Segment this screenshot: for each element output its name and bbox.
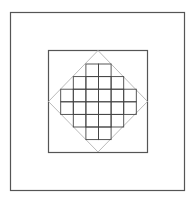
grid-cell — [99, 102, 112, 115]
grid-cell — [86, 89, 99, 102]
grid-cell — [124, 102, 137, 115]
grid-cell — [99, 127, 112, 140]
grid-cell — [99, 77, 112, 90]
grid-cell — [61, 89, 74, 102]
stepped-grid — [61, 64, 137, 140]
grid-cell — [111, 89, 124, 102]
grid-cell — [99, 64, 112, 77]
grid-cell — [73, 89, 86, 102]
grid-cell — [73, 77, 86, 90]
grid-cell — [86, 102, 99, 115]
grid-cell — [86, 77, 99, 90]
grid-cell — [99, 89, 112, 102]
grid-cell — [86, 127, 99, 140]
grid-cell — [124, 89, 137, 102]
grid-cell — [86, 64, 99, 77]
diamond — [49, 51, 148, 153]
grid-cell — [73, 114, 86, 127]
diagram-canvas — [0, 0, 195, 204]
grid-cell — [86, 114, 99, 127]
grid-cell — [73, 102, 86, 115]
grid-cell — [111, 77, 124, 90]
grid-cell — [61, 102, 74, 115]
grid-cell — [111, 114, 124, 127]
grid-cell — [99, 114, 112, 127]
grid-cell — [111, 102, 124, 115]
